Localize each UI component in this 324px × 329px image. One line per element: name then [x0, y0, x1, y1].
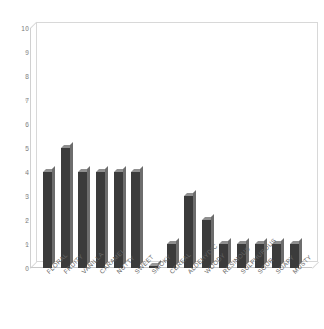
y-axis-tick-mark [25, 28, 29, 29]
bar-slot [162, 28, 180, 268]
bar-slot [39, 28, 57, 268]
bar-slot [233, 28, 251, 268]
bar [61, 148, 70, 268]
bar-chart: 012345678910 FLORALFRUITYVANILLACARAMELN… [0, 0, 324, 329]
bar-slot [92, 28, 110, 268]
bar-slot [215, 28, 233, 268]
bar-slot [127, 28, 145, 268]
bar-slot [268, 28, 286, 268]
plot-area [30, 28, 312, 268]
bar-slot [286, 28, 304, 268]
bar-slot [250, 28, 268, 268]
bar-slot [197, 28, 215, 268]
y-axis-tick-mark [25, 220, 29, 221]
y-axis-tick-mark [25, 100, 29, 101]
frame-edge-bottom-right [312, 262, 319, 269]
y-axis-tick-mark [25, 172, 29, 173]
y-axis-tick-mark [25, 148, 29, 149]
y-axis-tick-mark [25, 76, 29, 77]
y-axis-tick-mark [25, 196, 29, 197]
y-axis-tick-mark [25, 124, 29, 125]
bar-slot [109, 28, 127, 268]
bar-slot [56, 28, 74, 268]
bar-slot [145, 28, 163, 268]
bar-series [30, 28, 312, 268]
bar [131, 172, 140, 268]
bar [43, 172, 52, 268]
y-axis-tick-mark [25, 52, 29, 53]
bar-slot [180, 28, 198, 268]
y-axis-tick-mark [25, 268, 29, 269]
x-axis-labels: FLORALFRUITYVANILLACARAMELNUTTYSWEETSMOK… [30, 270, 312, 328]
bar-slot [74, 28, 92, 268]
y-axis-tick-mark [25, 244, 29, 245]
